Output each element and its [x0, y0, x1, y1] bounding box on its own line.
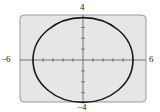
- x-min-label: −6: [1, 55, 11, 64]
- y-min-label: −4: [77, 103, 87, 112]
- x-max-label: 6: [149, 55, 154, 64]
- ellipse-chart: [0, 0, 160, 112]
- y-max-label: 4: [80, 3, 85, 12]
